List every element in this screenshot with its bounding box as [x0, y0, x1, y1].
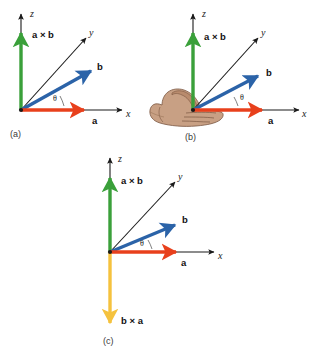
panel-c-caption: (c)	[103, 336, 114, 346]
panel-b-caption: (b)	[185, 132, 196, 142]
panel-a-origin-dot	[19, 108, 23, 112]
panel-b-theta-label: θ	[240, 93, 244, 102]
panel-c-b-cross-a-label: b × a	[121, 315, 144, 326]
figure-background	[0, 0, 315, 351]
panel-a-y-axis-label: y	[88, 27, 94, 38]
panel-a-a-cross-b-label: a × b	[32, 29, 54, 40]
panel-b-a-label: a	[268, 115, 274, 126]
panel-c-b-label: b	[182, 214, 188, 225]
panel-b-origin-dot	[191, 108, 195, 112]
panel-a-theta-label: θ	[53, 94, 57, 103]
panel-a-caption: (a)	[10, 129, 21, 139]
panel-a-b-label: b	[97, 61, 103, 72]
panel-b-z-axis-label: z	[201, 8, 206, 19]
panel-a-x-axis-label: x	[125, 108, 131, 119]
panel-b-x-axis-label: x	[301, 108, 307, 119]
panel-c-x-axis-label: x	[217, 250, 223, 261]
panel-c-theta-label: θ	[140, 239, 144, 248]
cross-product-figure: z y x a × b b a	[0, 0, 315, 351]
panel-a-a-label: a	[92, 115, 98, 126]
panel-b-a-cross-b-label: a × b	[204, 31, 226, 42]
panel-b-y-axis-label: y	[260, 27, 266, 38]
panel-c-z-axis-label: z	[117, 153, 122, 164]
panel-c-y-axis-label: y	[177, 171, 183, 182]
panel-b-b-label: b	[266, 67, 272, 78]
panel-c-a-cross-b-label: a × b	[121, 175, 143, 186]
panel-a-z-axis-label: z	[29, 8, 34, 19]
panel-c-a-label: a	[181, 257, 187, 268]
panel-c-origin-dot	[108, 250, 112, 254]
